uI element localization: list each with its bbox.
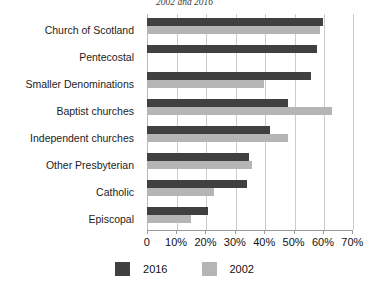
x-axis-tick (294, 230, 295, 234)
category-label: Baptist churches (0, 105, 134, 117)
legend-swatch-icon (115, 262, 130, 276)
bar-2002 (147, 134, 288, 142)
gridline (324, 14, 325, 230)
bar-2016 (147, 45, 317, 53)
bar-2002 (147, 215, 191, 223)
legend-item[interactable]: 2002 (202, 262, 254, 276)
chart-title: 2002 and 2016 (0, 0, 369, 8)
category-axis: Church of ScotlandPentecostalSmaller Den… (0, 14, 140, 230)
bar-2002 (147, 188, 215, 196)
bar-2016 (147, 72, 311, 80)
bar-chart: 2002 and 2016 Church of ScotlandPentecos… (0, 0, 369, 286)
bar-2016 (147, 180, 247, 188)
category-label: Independent churches (0, 132, 134, 144)
category-label: Catholic (0, 186, 134, 198)
bar-2002 (147, 26, 320, 34)
category-label: Episcopal (0, 213, 134, 225)
chart-legend: 20162002 (0, 258, 369, 280)
category-label: Other Presbyterian (0, 159, 134, 171)
legend-item[interactable]: 2016 (115, 262, 167, 276)
x-axis-tick-label: 70% (341, 236, 363, 249)
bar-2016 (147, 126, 270, 134)
bar-2016 (147, 99, 288, 107)
bar-2002 (147, 80, 264, 88)
x-axis-tick (147, 230, 148, 234)
x-axis-tick (205, 230, 206, 234)
bar-2016 (147, 18, 323, 26)
x-axis-tick (352, 230, 353, 234)
legend-swatch-icon (202, 262, 217, 276)
x-axis-tick (235, 230, 236, 234)
x-axis-tick (264, 230, 265, 234)
x-axis-tick-label: 60% (312, 236, 334, 249)
x-axis-tick-label: 0 (144, 236, 150, 249)
bar-2002 (147, 107, 332, 115)
legend-label: 2016 (143, 263, 167, 275)
x-axis-tick-label: 20% (194, 236, 216, 249)
bar-2016 (147, 153, 250, 161)
x-axis-tick-label: 50% (283, 236, 305, 249)
legend-label: 2002 (230, 263, 254, 275)
gridline (353, 14, 354, 230)
x-axis-tick-label: 10% (165, 236, 187, 249)
bar-2002 (147, 161, 253, 169)
category-label: Pentecostal (0, 51, 134, 63)
x-axis-tick (323, 230, 324, 234)
bar-2016 (147, 207, 209, 215)
category-label: Smaller Denominations (0, 78, 134, 90)
category-label: Church of Scotland (0, 24, 134, 36)
x-axis-tick (176, 230, 177, 234)
x-axis-tick-label: 30% (224, 236, 246, 249)
x-axis-tick-label: 40% (253, 236, 275, 249)
